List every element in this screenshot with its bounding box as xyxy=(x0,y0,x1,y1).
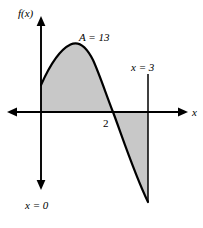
figure-container: f(x) x A = 13 x = 3 x = 0 2 xyxy=(0,0,203,228)
y-axis-down-arrow-icon xyxy=(37,180,46,190)
y-axis-up-arrow-icon xyxy=(37,16,46,26)
area-annotation-label: A = 13 xyxy=(78,31,110,43)
x-axis-right-arrow-icon xyxy=(178,108,188,117)
shaded-region-positive xyxy=(41,43,113,112)
x-axis-left-arrow-icon xyxy=(7,108,17,117)
right-boundary-label: x = 3 xyxy=(130,61,155,73)
x-axis-label: x xyxy=(191,106,197,118)
left-boundary-label: x = 0 xyxy=(24,199,49,211)
graph-canvas: f(x) x A = 13 x = 3 x = 0 2 xyxy=(0,0,203,228)
x-intercept-label: 2 xyxy=(103,117,109,129)
y-axis-label: f(x) xyxy=(18,7,34,20)
